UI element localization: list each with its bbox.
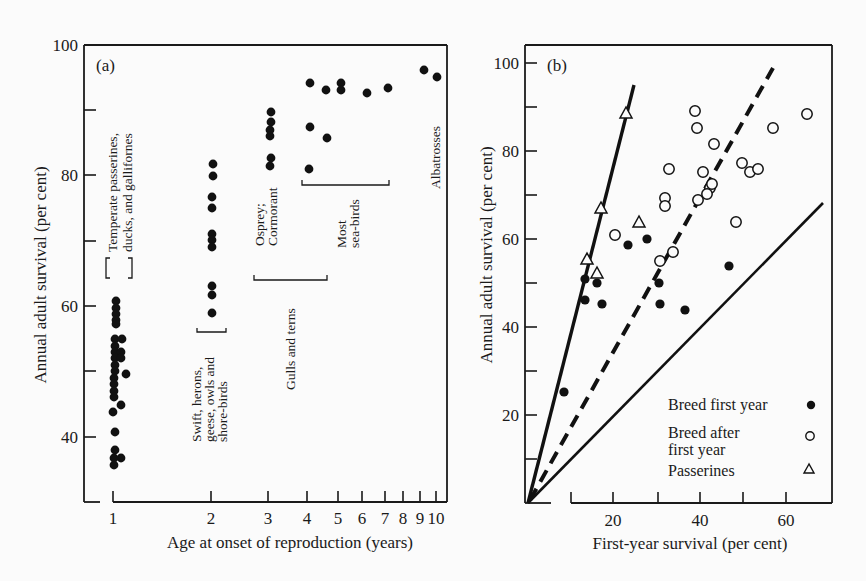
panel-b-x-tick-labels: 20 40 60 [605,511,795,530]
legend-filled-circle-icon [807,401,815,409]
legend-breed-after-line1: Breed after [668,424,740,441]
panel-a-x-tick-labels: 1 2 3 4 5 6 7 8 9 10 [109,509,445,528]
legend-breed-first-year: Breed first year [668,396,768,414]
temperate-bracket [106,258,132,278]
panel-b-y-axis-label: Annual adult survival (per cent) [477,146,496,363]
panel-b-y-ticks [525,63,537,459]
b-y-tick-20: 20 [502,406,519,425]
legend-triangle-icon [804,464,814,473]
steep-solid-line [528,85,634,503]
anno-gulls-terns: Gulls and terns [283,308,298,390]
panel-b-x-axis-label: First-year survival (per cent) [593,534,788,553]
figure: 100 80 60 40 1 2 3 4 5 6 7 8 9 [0,0,866,581]
panel-a-points [109,66,442,470]
anno-osprey-line2: Cormorant [265,187,280,246]
a-x-tick-5: 5 [334,509,343,528]
panel-a-y-ticks [84,110,96,437]
anno-albatrosses: Albatrosses [428,126,443,189]
panel-b: 100 80 60 40 20 20 40 60 First-year surv… [477,45,832,553]
panel-b-x-ticks [571,492,786,503]
b-x-tick-40: 40 [692,511,709,530]
legend-breed-after-line2: first year [668,441,726,459]
sea-birds-bracket [302,180,389,185]
legend-open-circle-icon [806,432,814,440]
a-x-tick-4: 4 [303,509,312,528]
panel-b-label: (b) [547,56,567,75]
gulls-terns-bracket [254,275,327,280]
panel-a: 100 80 60 40 1 2 3 4 5 6 7 8 9 [31,36,447,552]
b-x-tick-20: 20 [605,511,622,530]
panel-a-y-axis-label: Annual adult survival (per cent) [31,166,50,383]
b-y-tick-60: 60 [502,230,519,249]
panel-a-x-axis-label: Age at onset of reproduction (years) [167,533,413,552]
swift-bracket [197,328,226,332]
panel-a-x-ticks [113,491,436,502]
legend-passerines: Passerines [668,462,735,479]
a-x-tick-2: 2 [207,509,216,528]
a-y-tick-100: 100 [53,36,79,55]
a-x-tick-7: 7 [381,509,390,528]
panel-a-label: (a) [96,56,115,75]
a-y-tick-80: 80 [61,166,78,185]
a-x-tick-8: 8 [399,509,408,528]
b-y-tick-100: 100 [494,54,520,73]
a-x-tick-9: 9 [416,509,425,528]
a-y-tick-40: 40 [61,428,78,447]
panel-b-legend: Breed first year Breed after first year … [668,396,815,479]
panel-a-y-tick-labels: 100 80 60 40 [53,36,79,447]
series-breed-after-first-year [610,106,812,266]
a-x-tick-10: 10 [428,509,445,528]
anno-seabirds-line2: sea-birds [347,199,362,248]
anno-temperate-line1: Temperate passerines, [105,133,120,252]
anno-swift-line3: shore-birds [215,381,230,442]
b-y-tick-40: 40 [502,318,519,337]
panel-b-y-tick-labels: 100 80 60 40 20 [494,54,520,425]
b-y-tick-80: 80 [502,142,519,161]
a-x-tick-3: 3 [264,509,273,528]
a-y-tick-60: 60 [61,297,78,316]
panel-a-frame [84,45,447,502]
anno-temperate-line2: ducks, and gallifornes [120,133,135,252]
b-x-tick-60: 60 [778,511,795,530]
a-x-tick-1: 1 [109,509,118,528]
a-x-tick-6: 6 [358,509,367,528]
panel-a-annotations: Temperate passerines, ducks, and gallifo… [105,126,443,442]
